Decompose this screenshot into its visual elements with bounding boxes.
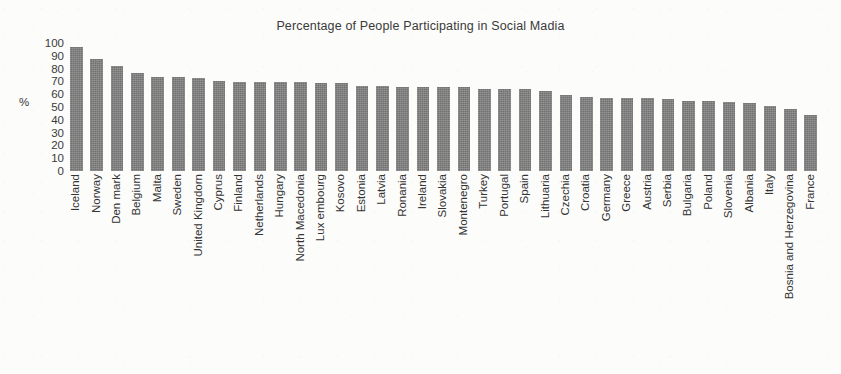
bar bbox=[111, 66, 124, 171]
bar-slot bbox=[131, 38, 144, 171]
bar bbox=[294, 82, 307, 171]
x-axis-tick: Italy bbox=[764, 174, 776, 195]
bar bbox=[478, 89, 491, 171]
bar-slot bbox=[560, 38, 573, 171]
x-axis-tick-slot: Netherlands bbox=[250, 174, 270, 370]
bar-slot bbox=[682, 38, 695, 171]
x-axis-tick: Latvia bbox=[377, 174, 389, 205]
bar bbox=[784, 109, 797, 172]
bar-slot bbox=[702, 38, 715, 171]
x-axis-tick-slot: Italy bbox=[760, 174, 780, 370]
x-axis-tick: Bulgaria bbox=[683, 174, 695, 216]
x-axis-tick: Greece bbox=[621, 174, 633, 212]
bar bbox=[539, 91, 552, 171]
bar-slot bbox=[376, 38, 389, 171]
x-axis-tick: Serbia bbox=[662, 174, 674, 207]
bar-slot bbox=[458, 38, 471, 171]
bar bbox=[743, 103, 756, 171]
x-axis-tick-slot: Ronania bbox=[392, 174, 412, 370]
bar bbox=[213, 81, 226, 171]
x-axis-tick: Bosnia and Herzegovina bbox=[785, 174, 797, 299]
x-axis-tick-slot: Norway bbox=[86, 174, 106, 370]
bar bbox=[274, 82, 287, 171]
bar bbox=[804, 115, 817, 171]
x-axis-tick: North Macedonia bbox=[295, 174, 307, 262]
bar-slot bbox=[804, 38, 817, 171]
bar-slot bbox=[274, 38, 287, 171]
bar bbox=[172, 77, 185, 171]
x-axis-tick-slot: Slovakia bbox=[433, 174, 453, 370]
y-axis-tick-labels: 1009080706050403020100 bbox=[38, 32, 64, 178]
x-axis-tick-slot: Den mark bbox=[107, 174, 127, 370]
bar-slot bbox=[723, 38, 736, 171]
x-axis-tick: Germany bbox=[601, 174, 613, 221]
x-axis-tick-slot: Ireland bbox=[413, 174, 433, 370]
bar bbox=[458, 87, 471, 171]
bar bbox=[90, 59, 103, 171]
bar bbox=[580, 97, 593, 171]
x-axis-tick-slot: Serbia bbox=[658, 174, 678, 370]
y-axis-tick: 40 bbox=[51, 115, 64, 126]
y-axis-tick: 60 bbox=[51, 89, 64, 100]
bar-slot bbox=[90, 38, 103, 171]
x-axis-tick-slot: Germany bbox=[597, 174, 617, 370]
bar bbox=[764, 106, 777, 171]
x-axis-tick: Spain bbox=[519, 174, 531, 203]
x-axis-tick-slot: Belgium bbox=[127, 174, 147, 370]
bar bbox=[254, 82, 267, 171]
x-axis-tick-slot: Bulgaria bbox=[678, 174, 698, 370]
x-axis-tick-slot: Turkey bbox=[474, 174, 494, 370]
bar-slot bbox=[662, 38, 675, 171]
bar-slot bbox=[580, 38, 593, 171]
x-axis-tick: Croatia bbox=[581, 174, 593, 211]
y-axis-title: % bbox=[19, 96, 29, 108]
x-axis-tick: Czechia bbox=[560, 174, 572, 216]
x-axis-tick: Lithuaria bbox=[540, 174, 552, 218]
bar-slot bbox=[539, 38, 552, 171]
bar bbox=[600, 98, 613, 171]
bar-slot bbox=[519, 38, 532, 171]
x-axis-tick-slot: Czechia bbox=[556, 174, 576, 370]
x-axis-tick-slot: Austria bbox=[637, 174, 657, 370]
bar-slot bbox=[743, 38, 756, 171]
x-axis-tick: Ireland bbox=[417, 174, 429, 209]
x-axis-tick: Poland bbox=[703, 174, 715, 210]
y-axis-tick: 70 bbox=[51, 76, 64, 87]
bar-slot bbox=[641, 38, 654, 171]
bar bbox=[621, 98, 634, 171]
bar bbox=[682, 101, 695, 171]
bar-chart-figure: Percentage of People Participating in So… bbox=[0, 0, 841, 374]
x-axis-tick-slot: Bosnia and Herzegovina bbox=[780, 174, 800, 370]
y-axis-tick: 10 bbox=[51, 153, 64, 164]
bar-slot bbox=[315, 38, 328, 171]
bar bbox=[131, 73, 144, 171]
x-axis-tick-slot: Estonia bbox=[352, 174, 372, 370]
bar bbox=[151, 77, 164, 171]
x-axis-tick-slot: Sweden bbox=[168, 174, 188, 370]
x-axis-tick-slot: Lithuaria bbox=[535, 174, 555, 370]
y-axis-tick: 100 bbox=[45, 38, 64, 49]
x-axis-tick-slot: Malta bbox=[148, 174, 168, 370]
x-axis-tick-slot: Portugal bbox=[495, 174, 515, 370]
x-axis-tick-slot: Poland bbox=[699, 174, 719, 370]
bar-slot bbox=[784, 38, 797, 171]
bar bbox=[233, 82, 246, 171]
bar bbox=[662, 99, 675, 171]
x-axis-tick: Netherlands bbox=[254, 174, 266, 236]
y-axis-tick: 30 bbox=[51, 128, 64, 139]
x-axis-tick: Iceland bbox=[70, 174, 82, 211]
bar-slot bbox=[498, 38, 511, 171]
bar bbox=[498, 89, 511, 171]
x-axis-tick-slot: Kosovo bbox=[331, 174, 351, 370]
plot-area bbox=[66, 38, 821, 171]
x-axis-tick: Slovakia bbox=[438, 174, 450, 217]
bar bbox=[641, 98, 654, 171]
chart-title: Percentage of People Participating in So… bbox=[0, 19, 841, 33]
x-axis-tick: Albania bbox=[744, 174, 756, 212]
x-axis-tick: Malta bbox=[152, 174, 164, 202]
bar-slot bbox=[111, 38, 124, 171]
x-axis-tick: Cyprus bbox=[213, 174, 225, 210]
y-axis-tick: 80 bbox=[51, 64, 64, 75]
bar bbox=[376, 86, 389, 171]
x-axis-tick-slot: Hungary bbox=[270, 174, 290, 370]
